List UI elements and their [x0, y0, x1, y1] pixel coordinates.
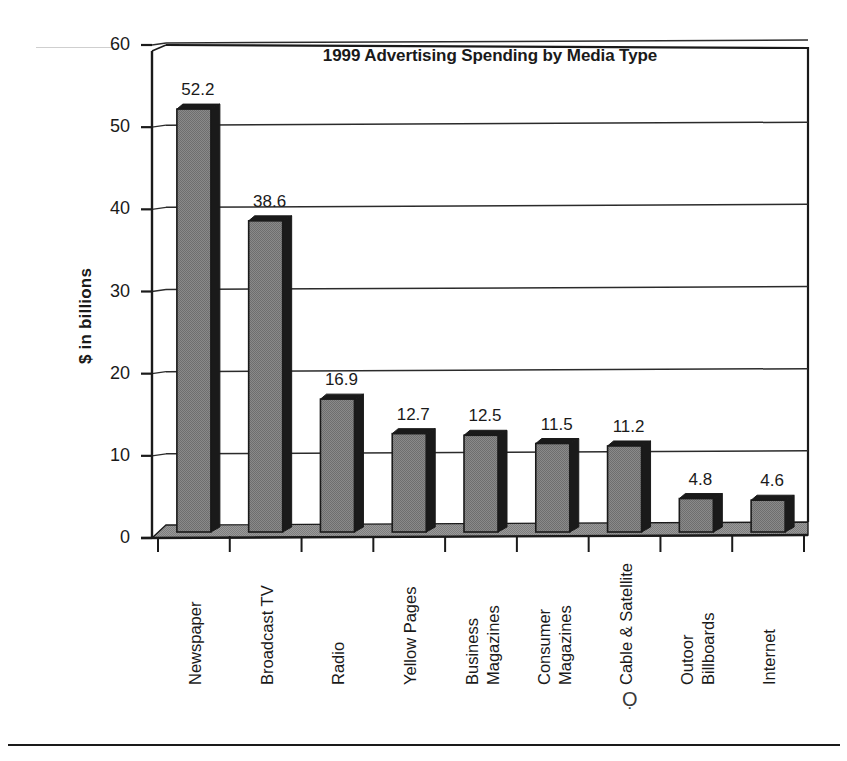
category-label-line: Newspaper [186, 602, 205, 685]
y-axis-tick-label: 60 [84, 35, 130, 53]
bar-value-label: 11.2 [594, 418, 664, 435]
page-divider-rule [8, 744, 840, 746]
bar-value-label: 11.5 [522, 416, 592, 433]
y-axis-tick-label: 10 [84, 446, 130, 464]
x-axis-category-label: ConsumerMagazines [534, 605, 576, 685]
bar [320, 394, 363, 532]
chart-title: 1999 Advertising Spending by Media Type [255, 46, 725, 66]
bar [536, 439, 579, 532]
category-label-line: Radio [329, 642, 348, 685]
scan-smudge-glyph: Ọ [622, 688, 638, 711]
x-axis-category-label: BusinessMagazines [462, 605, 504, 685]
bar [751, 495, 794, 532]
y-axis-tick-label: 20 [84, 364, 130, 382]
x-axis-category-label: Radio [329, 642, 348, 685]
x-axis-category-label: Yellow Pages [401, 587, 420, 685]
bar-value-label: 38.6 [235, 193, 305, 210]
category-label-line: Consumer [534, 605, 555, 685]
bar [608, 441, 651, 532]
category-label-line: Yellow Pages [401, 587, 420, 685]
x-axis-category-label: Broadcast TV [258, 585, 277, 685]
x-axis-category-label: OutoorBillboards [677, 613, 719, 685]
x-axis-category-label: Newspaper [186, 602, 205, 685]
bar [249, 216, 292, 532]
bar-value-label: 16.9 [306, 371, 376, 388]
chart-page: $ in billions 1999 Advertising Spending … [0, 0, 847, 761]
y-axis-tick-label: 30 [84, 282, 130, 300]
bar-value-label: 12.7 [378, 406, 448, 423]
category-label-line: Outoor [677, 613, 698, 685]
category-label-line: Cable & Satellite [617, 563, 636, 685]
y-axis-title: $ in billions [76, 216, 96, 416]
category-label-line: Business [462, 605, 483, 685]
category-label-line: Broadcast TV [258, 585, 277, 685]
bar [464, 430, 507, 532]
category-label-line: Magazines [483, 605, 504, 685]
y-axis-tick-label: 0 [84, 528, 130, 546]
category-label-line: Internet [760, 629, 779, 685]
bar [392, 429, 435, 532]
bar [679, 494, 722, 532]
category-label-line: Magazines [555, 605, 576, 685]
bar-value-label: 12.5 [450, 407, 520, 424]
y-axis-tick-label: 50 [84, 117, 130, 135]
category-label-line: Billboards [698, 613, 719, 685]
bar [177, 104, 220, 532]
bar-value-label: 4.6 [737, 472, 807, 489]
y-axis-tick-label: 40 [84, 199, 130, 217]
bar-value-label: 52.2 [163, 81, 233, 98]
x-axis-category-label: Internet [760, 629, 779, 685]
bar-value-label: 4.8 [665, 471, 735, 488]
x-axis-category-label: Cable & Satellite [617, 563, 636, 685]
